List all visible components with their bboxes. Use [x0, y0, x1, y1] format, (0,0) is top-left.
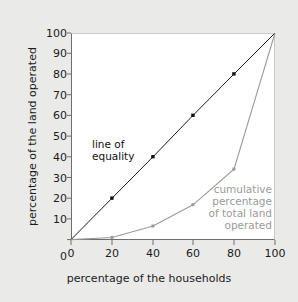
- annotation-cumulative-line4: operated: [176, 219, 272, 231]
- x-tick-100: 100: [255, 248, 295, 259]
- x-tick-0: 0: [51, 248, 91, 259]
- annotation-line-of-equality-line2: equality: [92, 150, 158, 162]
- x-tick-80: 80: [214, 248, 254, 259]
- y-axis-ticks: [67, 33, 71, 240]
- x-tick-20: 20: [92, 248, 132, 259]
- annotation-cumulative-line3: of total land: [176, 207, 272, 219]
- annotation-line-of-equality: line of equality: [92, 138, 158, 162]
- x-axis-tick-labels: 0 20 40 60 80 100: [0, 248, 298, 266]
- x-axis-ticks: [71, 240, 275, 245]
- lorenz-curve-figure: 100 90 80 70 60 50 40 30 20 10 0 0 20 40…: [0, 0, 298, 302]
- annotation-cumulative-line1: cumulative: [176, 183, 272, 195]
- y-axis-title: percentage of the land operated: [26, 27, 39, 247]
- annotation-cumulative-line2: percentage: [176, 195, 272, 207]
- x-axis-title: percentage of the households: [0, 272, 298, 285]
- annotation-cumulative-percentage: cumulative percentage of total land oper…: [176, 183, 272, 231]
- x-tick-60: 60: [173, 248, 213, 259]
- x-tick-40: 40: [133, 248, 173, 259]
- annotation-line-of-equality-line1: line of: [92, 138, 158, 150]
